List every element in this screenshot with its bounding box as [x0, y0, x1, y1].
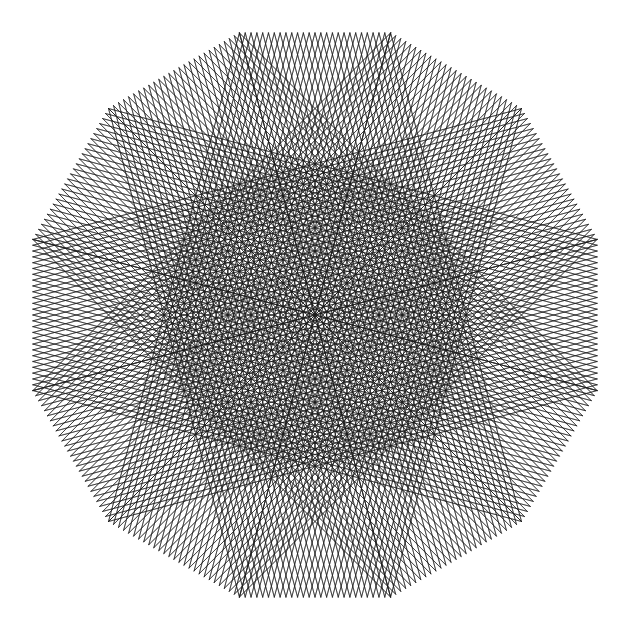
artwork-canvas — [0, 0, 630, 630]
string-art-svg — [0, 0, 630, 630]
